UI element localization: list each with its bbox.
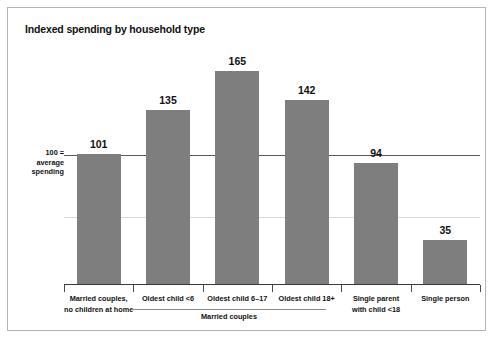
category-label-line-1: Single person: [411, 294, 480, 305]
bar-slot: 142: [272, 38, 341, 285]
bar-value-label: 135: [159, 94, 177, 106]
category-label-line-1: Oldest child 6–17: [203, 294, 272, 305]
category-label: Married couples, no children at home: [64, 294, 133, 315]
category-label-line-2: with child <18: [341, 305, 410, 316]
category-label-line-2: no children at home: [64, 305, 133, 316]
axis-tick: [133, 285, 134, 292]
chart-figure: Indexed spending by household type 100 =…: [7, 7, 486, 331]
reference-label-line-2: average: [20, 158, 64, 168]
axis-tick: [411, 285, 412, 292]
category-label: Oldest child 6–17: [203, 294, 272, 305]
bar[interactable]: [285, 100, 329, 285]
axis-tick: [203, 285, 204, 292]
axis-tick: [341, 285, 342, 292]
bar-slot: 165: [203, 38, 272, 285]
category-label: Single person: [411, 294, 480, 305]
bar-value-label: 94: [370, 147, 382, 159]
bar[interactable]: [215, 71, 259, 286]
category-label-line-1: Oldest child 18+: [272, 294, 341, 305]
reference-line-label: 100 = average spending: [20, 148, 64, 177]
bar-value-label: 35: [439, 224, 451, 236]
category-label-line-1: Single parent: [341, 294, 410, 305]
category-label: Oldest child 18+: [272, 294, 341, 305]
bar-value-label: 101: [90, 138, 108, 150]
bar-value-label: 165: [229, 55, 247, 67]
bar[interactable]: [423, 240, 467, 286]
bar-value-label: 142: [298, 84, 316, 96]
bar-slot: 94: [341, 38, 410, 285]
bar-slot: 35: [411, 38, 480, 285]
axis-tick: [272, 285, 273, 292]
group-bracket-label: Married couples: [132, 312, 326, 321]
category-label: Single parent with child <18: [341, 294, 410, 315]
category-label-line-1: Oldest child <6: [133, 294, 202, 305]
bar-slot: 135: [133, 38, 202, 285]
bar[interactable]: [146, 110, 190, 286]
category-label: Oldest child <6: [133, 294, 202, 305]
reference-label-line-1: 100 =: [20, 148, 64, 158]
reference-label-line-3: spending: [20, 167, 64, 177]
group-bracket-line: [132, 309, 326, 310]
bar-slot: 101: [64, 38, 133, 285]
axis-tick: [64, 285, 65, 292]
bar[interactable]: [354, 163, 398, 285]
category-label-line-1: Married couples,: [64, 294, 133, 305]
bar[interactable]: [77, 154, 121, 285]
chart-title: Indexed spending by household type: [25, 23, 205, 35]
axis-tick: [480, 285, 481, 292]
plot-area: 101 135 165 142 94 35: [64, 38, 480, 285]
